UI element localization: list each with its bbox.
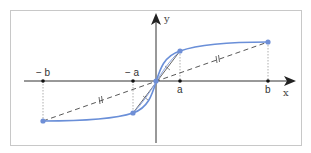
tick-b (266, 79, 270, 83)
tick-neg-a (131, 79, 135, 83)
point-neg-a (130, 110, 135, 115)
point-a (177, 48, 182, 53)
point-origin (153, 78, 158, 83)
label-neg-b: − b (36, 67, 51, 78)
label-b: b (265, 84, 271, 95)
label-neg-a: − a (125, 67, 140, 78)
tick-neg-b (41, 79, 45, 83)
point-b (265, 39, 270, 44)
tick-a (178, 79, 182, 83)
label-a: a (177, 84, 183, 95)
x-axis-label: x (283, 87, 289, 98)
odd-function-diagram: − b − a a b x y (0, 0, 311, 153)
y-axis-label: y (163, 13, 170, 24)
point-neg-b (40, 118, 45, 123)
